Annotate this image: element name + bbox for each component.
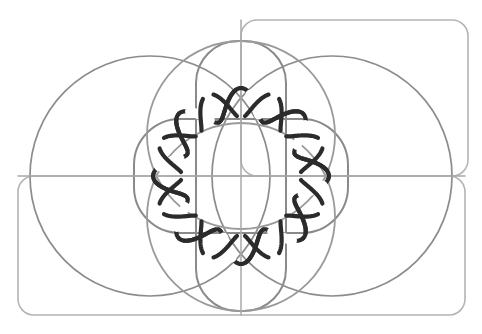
knot-strand-b-segment [164, 214, 196, 217]
knot-strand-b-segment [279, 221, 282, 253]
knot-strand-b-segment [286, 135, 318, 138]
knot-figure-canvas [0, 0, 482, 334]
knot-figure-container [0, 0, 482, 334]
knot-strand-b-segment [200, 99, 203, 131]
